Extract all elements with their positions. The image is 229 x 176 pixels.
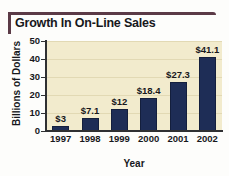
bar-value-label: $18.4 — [129, 86, 169, 96]
gridline — [46, 59, 222, 60]
y-axis-tick-mark — [41, 131, 46, 132]
y-axis-tick-label: 0 — [24, 126, 40, 136]
bar-value-label: $27.3 — [158, 70, 198, 80]
y-axis-title: Billions of Dollars — [11, 36, 22, 132]
bar — [140, 98, 157, 131]
y-axis-tick-label: 40 — [24, 54, 40, 64]
y-axis-tick-label: 10 — [24, 108, 40, 118]
y-axis-tick-label: 50 — [24, 36, 40, 46]
y-axis-tick-mark — [41, 41, 46, 42]
y-axis-tick-labels: 01020304050 — [22, 0, 40, 176]
bar-value-label: $41.1 — [187, 45, 227, 55]
bar — [170, 82, 187, 131]
bar-value-label: $7.1 — [70, 106, 110, 116]
y-axis-tick-mark — [41, 59, 46, 60]
bar-value-label: $12 — [99, 97, 139, 107]
gridline — [46, 41, 222, 42]
title-bracket-vertical-icon — [8, 12, 11, 34]
bar — [111, 109, 128, 131]
bar — [199, 57, 216, 131]
x-axis-line — [45, 130, 223, 132]
y-axis-tick-label: 20 — [24, 90, 40, 100]
y-axis-tick-mark — [41, 95, 46, 96]
y-axis-tick-mark — [41, 77, 46, 78]
y-axis-tick-label: 30 — [24, 72, 40, 82]
x-axis-tick-label: 2002 — [189, 134, 225, 144]
x-axis-title: Year — [46, 158, 222, 169]
chart-screenshot: Growth In On-Line Sales 01020304050 Bill… — [0, 0, 229, 176]
